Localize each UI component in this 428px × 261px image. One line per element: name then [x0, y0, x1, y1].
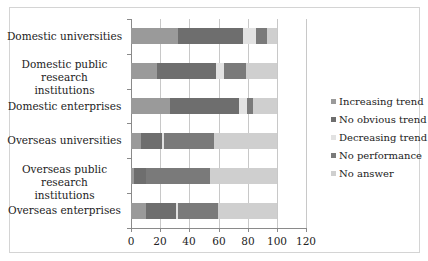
- legend-item: No performance: [331, 146, 427, 164]
- bar-segment[interactable]: [146, 168, 210, 184]
- bar-segment[interactable]: [267, 28, 277, 44]
- bar-segment[interactable]: [216, 63, 225, 79]
- legend-label: No answer: [339, 168, 394, 179]
- gridline: [248, 19, 249, 228]
- gridline: [189, 19, 190, 228]
- stacked-bar: [131, 168, 277, 184]
- category-label: Overseas public researchinstitutions: [2, 163, 127, 202]
- stacked-bar: [131, 28, 277, 44]
- legend-item: No answer: [331, 164, 427, 182]
- legend-item: Increasing trend: [331, 92, 427, 110]
- category-label-line: Overseas universities: [2, 134, 127, 147]
- category-label: Domestic public researchinstitutions: [2, 58, 127, 97]
- x-axis-tick-label: 60: [204, 235, 234, 247]
- y-axis-tick: [127, 19, 131, 20]
- bar-segment[interactable]: [239, 98, 247, 114]
- legend-swatch-icon: [331, 171, 336, 176]
- gridline: [306, 19, 307, 228]
- bar-segment[interactable]: [178, 203, 218, 219]
- x-axis-tick-label: 40: [174, 235, 204, 247]
- legend-item: No obvious trend: [331, 110, 427, 128]
- y-axis-line: [131, 19, 132, 229]
- y-axis-tick: [127, 89, 131, 90]
- legend-swatch-icon: [331, 135, 336, 140]
- bar-segment[interactable]: [256, 28, 266, 44]
- chart-legend: Increasing trendNo obvious trendDecreasi…: [331, 92, 427, 182]
- legend-label: Increasing trend: [339, 96, 424, 107]
- y-axis-tick: [127, 228, 131, 229]
- bar-segment[interactable]: [141, 133, 161, 149]
- bar-segment[interactable]: [131, 98, 170, 114]
- bar-segment[interactable]: [157, 63, 215, 79]
- bar-segment[interactable]: [224, 63, 246, 79]
- bar-segment[interactable]: [214, 133, 277, 149]
- category-label-line: institutions: [2, 189, 127, 202]
- category-label: Overseas universities: [2, 134, 127, 147]
- category-label: Overseas enterprises: [2, 204, 127, 217]
- category-label: Domestic enterprises: [2, 100, 127, 113]
- x-axis-tick-label: 0: [116, 235, 146, 247]
- category-label-line: institutions: [2, 84, 127, 97]
- bar-segment[interactable]: [246, 63, 277, 79]
- legend-label: Decreasing trend: [339, 132, 427, 143]
- bar-segment[interactable]: [218, 203, 276, 219]
- bar-segment[interactable]: [146, 203, 177, 219]
- stacked-bar: [131, 133, 277, 149]
- y-axis-tick: [127, 158, 131, 159]
- legend-swatch-icon: [331, 99, 336, 104]
- gridline: [160, 19, 161, 228]
- gridline: [219, 19, 220, 228]
- stacked-bar: [131, 203, 277, 219]
- bar-segment[interactable]: [170, 98, 239, 114]
- category-label-line: Domestic universities: [2, 30, 127, 43]
- bar-segment[interactable]: [210, 168, 277, 184]
- category-label-line: Overseas enterprises: [2, 204, 127, 217]
- y-axis-tick: [127, 123, 131, 124]
- category-label-line: Domestic public research: [2, 58, 127, 84]
- bar-segment[interactable]: [134, 168, 146, 184]
- bar-segment[interactable]: [131, 63, 157, 79]
- bar-segment[interactable]: [253, 98, 276, 114]
- legend-swatch-icon: [331, 153, 336, 158]
- x-axis-line: [131, 228, 307, 229]
- category-label: Domestic universities: [2, 30, 127, 43]
- legend-label: No obvious trend: [339, 114, 427, 125]
- x-axis-tick-label: 120: [291, 235, 321, 247]
- bar-segment[interactable]: [178, 28, 244, 44]
- legend-swatch-icon: [331, 117, 336, 122]
- legend-label: No performance: [339, 150, 422, 161]
- bar-segment[interactable]: [131, 203, 146, 219]
- bar-segment[interactable]: [164, 133, 214, 149]
- bar-segment[interactable]: [131, 28, 178, 44]
- x-axis-tick-label: 80: [233, 235, 263, 247]
- x-axis-tick-label: 100: [262, 235, 292, 247]
- y-axis-tick: [127, 54, 131, 55]
- stacked-bar: [131, 98, 277, 114]
- legend-item: Decreasing trend: [331, 128, 427, 146]
- bar-segment[interactable]: [131, 133, 141, 149]
- category-label-line: Domestic enterprises: [2, 100, 127, 113]
- x-axis-tick-label: 20: [145, 235, 175, 247]
- gridline: [277, 19, 278, 228]
- category-label-line: Overseas public research: [2, 163, 127, 189]
- bar-segment[interactable]: [243, 28, 256, 44]
- stacked-bar: [131, 63, 277, 79]
- y-axis-tick: [127, 193, 131, 194]
